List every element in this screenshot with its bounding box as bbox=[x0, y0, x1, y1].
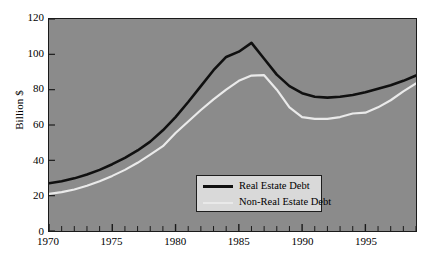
legend-label-non-real-estate-debt: Non-Real Estate Debt bbox=[239, 197, 331, 208]
x-tick-label-1995: 1995 bbox=[346, 236, 386, 247]
x-tick-label-1970: 1970 bbox=[28, 236, 68, 247]
y-tick-label: 40 bbox=[16, 155, 44, 166]
y-axis-title: Billion $ bbox=[13, 70, 25, 150]
x-tick-label-1990: 1990 bbox=[282, 236, 322, 247]
chart-figure: Billion $ 020406080100120 19701975198019… bbox=[0, 0, 427, 266]
legend-item-non-real-estate-debt: Non-Real Estate Debt bbox=[197, 194, 321, 211]
legend-label-real-estate-debt: Real Estate Debt bbox=[239, 181, 310, 192]
y-tick-label: 60 bbox=[16, 119, 44, 130]
chart-legend: Real Estate Debt Non-Real Estate Debt bbox=[196, 175, 322, 212]
x-tick-label-1985: 1985 bbox=[219, 236, 259, 247]
legend-item-real-estate-debt: Real Estate Debt bbox=[197, 178, 321, 195]
y-tick-label: 20 bbox=[16, 190, 44, 201]
x-tick-label-1975: 1975 bbox=[92, 236, 132, 247]
legend-line-swatch-non-real-estate-debt bbox=[203, 202, 233, 204]
y-tick-label: 100 bbox=[16, 48, 44, 59]
legend-line-swatch-real-estate-debt bbox=[203, 185, 233, 188]
y-tick-label: 120 bbox=[16, 12, 44, 23]
y-tick-label: 80 bbox=[16, 83, 44, 94]
x-tick-label-1980: 1980 bbox=[155, 236, 195, 247]
